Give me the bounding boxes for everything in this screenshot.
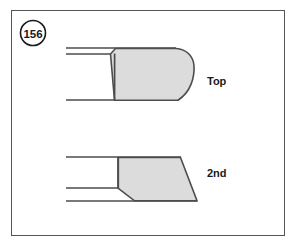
top-ring-cross-section bbox=[111, 49, 195, 101]
top-ring-label: Top bbox=[207, 75, 227, 87]
figure-number-label: 156 bbox=[23, 28, 42, 40]
second-ring-diagram: 2nd bbox=[66, 157, 227, 201]
second-ring-label: 2nd bbox=[207, 167, 227, 179]
top-ring-diagram: Top bbox=[66, 48, 227, 100]
figure-root: 156 Top bbox=[0, 0, 298, 249]
figure-number-badge: 156 bbox=[21, 21, 46, 46]
second-ring-cross-section bbox=[118, 158, 197, 201]
piston-ring-profile-diagram: 156 Top bbox=[0, 0, 298, 249]
